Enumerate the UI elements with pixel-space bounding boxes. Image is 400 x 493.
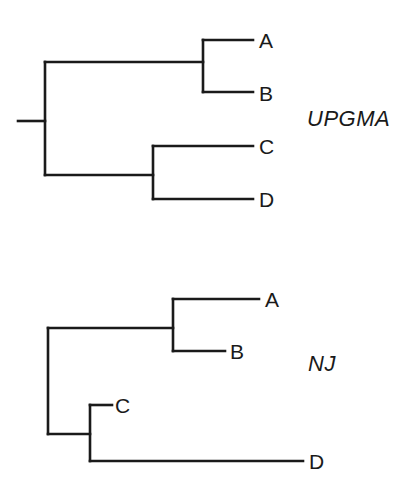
- nj-tip-label-a: A: [265, 289, 279, 310]
- upgma-tip-label-d: D: [259, 189, 274, 210]
- upgma-method-label: UPGMA: [307, 108, 390, 130]
- nj-tip-label-d: D: [309, 451, 324, 472]
- nj-method-label: NJ: [308, 353, 336, 375]
- upgma-tip-label-a: A: [259, 30, 273, 51]
- upgma-tip-label-b: B: [259, 83, 273, 104]
- nj-tip-label-b: B: [230, 341, 244, 362]
- phylogenetic-tree-figure: A B C D UPGMA A B C D NJ: [0, 0, 400, 493]
- upgma-tip-label-c: C: [259, 136, 274, 157]
- tree-lines-canvas: [0, 0, 400, 493]
- nj-tip-label-c: C: [115, 395, 130, 416]
